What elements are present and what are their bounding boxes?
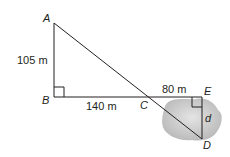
- length-ED: d: [205, 113, 211, 124]
- label-A: A: [43, 13, 50, 24]
- label-C: C: [140, 100, 148, 111]
- segment-AD: [54, 23, 202, 139]
- right-angle-B-icon: [54, 87, 64, 97]
- label-B: B: [42, 95, 49, 106]
- triangle-diagram: [0, 0, 230, 157]
- length-AB: 105 m: [17, 55, 48, 66]
- length-CE: 80 m: [162, 84, 186, 95]
- label-D: D: [203, 140, 211, 151]
- label-E: E: [204, 86, 211, 97]
- length-BC: 140 m: [86, 101, 117, 112]
